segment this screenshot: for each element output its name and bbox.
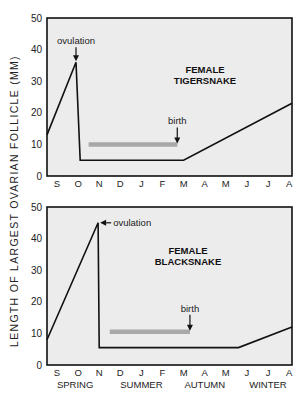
x-tick-label: O (74, 178, 81, 189)
ovulation-label: ovulation (113, 217, 151, 228)
x-tick-label: J (139, 178, 144, 189)
panel-tigersnake: 01020304050SONDJFMAMJJAFEMALETIGERSNAKEo… (31, 13, 293, 190)
season-label: AUTUMN (184, 379, 225, 390)
x-tick-label: J (245, 178, 250, 189)
y-tick-label: 50 (31, 202, 43, 213)
y-tick-label: 0 (36, 360, 42, 371)
y-tick-label: 30 (31, 265, 43, 276)
x-tick-label: S (54, 178, 60, 189)
x-tick-label: J (266, 367, 271, 378)
x-tick-label: J (266, 178, 271, 189)
birth-label: birth (168, 115, 186, 126)
y-tick-label: 40 (31, 233, 43, 244)
panel-title: FEMALE (185, 64, 224, 75)
y-tick-label: 0 (36, 171, 42, 182)
season-label: SUMMER (120, 379, 162, 390)
x-tick-label: M (222, 367, 230, 378)
x-tick-label: F (160, 367, 166, 378)
x-tick-label: D (117, 178, 124, 189)
y-tick-label: 20 (31, 296, 43, 307)
birth-label: birth (181, 303, 199, 314)
x-tick-label: A (202, 178, 209, 189)
season-label: WINTER (249, 379, 287, 390)
y-tick-label: 30 (31, 76, 43, 87)
season-label: SPRING (57, 379, 93, 390)
x-tick-label: M (222, 178, 230, 189)
x-tick-label: S (54, 367, 60, 378)
x-tick-label: A (286, 367, 293, 378)
y-tick-label: 10 (31, 328, 43, 339)
x-tick-label: A (286, 178, 293, 189)
x-tick-label: N (96, 178, 103, 189)
x-tick-label: D (117, 367, 124, 378)
y-tick-label: 40 (31, 44, 43, 55)
x-tick-label: M (180, 367, 188, 378)
panel-title: BLACKSNAKE (155, 256, 222, 267)
y-tick-label: 50 (31, 13, 43, 24)
x-tick-label: M (180, 178, 188, 189)
x-tick-label: O (74, 367, 81, 378)
x-tick-label: F (160, 178, 166, 189)
x-tick-label: J (139, 367, 144, 378)
x-tick-label: J (245, 367, 250, 378)
x-tick-label: N (96, 367, 103, 378)
panel-title: FEMALE (168, 245, 207, 256)
follicle-chart-figure: 01020304050SONDJFMAMJJAFEMALETIGERSNAKEo… (0, 0, 306, 401)
x-tick-label: A (202, 367, 209, 378)
ovulation-label: ovulation (57, 35, 95, 46)
y-tick-label: 20 (31, 107, 43, 118)
panel-title: TIGERSNAKE (174, 75, 236, 86)
y-tick-label: 10 (31, 139, 43, 150)
panel-blacksnake: 01020304050SONDJFMAMJJASPRINGSUMMERAUTUM… (31, 202, 293, 391)
